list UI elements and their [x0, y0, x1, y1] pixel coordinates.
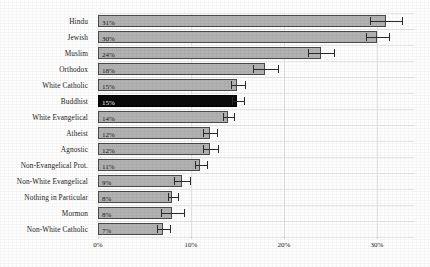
error-bar-cap [161, 209, 162, 217]
bar-value-label: 8% [102, 210, 111, 221]
error-bar-cap [231, 81, 232, 89]
category-label: Mormon [0, 205, 92, 221]
error-bar-cap [389, 33, 390, 41]
error-bar [232, 101, 244, 102]
bar-value-label: 18% [102, 66, 115, 77]
bars-layer: 31%30%24%18%15%15%14%12%12%11%9%8%8%7% [98, 13, 414, 237]
error-bar-cap [308, 49, 309, 57]
error-bar [253, 69, 278, 70]
bar-value-label: 14% [102, 114, 115, 125]
axis-tick-mark [377, 237, 378, 239]
category-label: Orthodox [0, 61, 92, 77]
bar-value-label: 12% [102, 130, 115, 141]
value-axis: 0%10%20%30% [98, 237, 414, 257]
category-label: White Catholic [0, 77, 92, 93]
error-bar-cap [168, 193, 169, 201]
category-label: Muslim [0, 45, 92, 61]
error-bar [231, 85, 245, 86]
error-bar [195, 165, 207, 166]
category-label: Agnostic [0, 141, 92, 157]
axis-tick-mark [284, 237, 285, 239]
error-bar-cap [157, 225, 158, 233]
error-bar [370, 21, 402, 22]
bar-row: 12% [98, 141, 414, 157]
axis-tick-mark [98, 237, 99, 239]
error-bar [161, 213, 184, 214]
bar-value-label: 15% [102, 82, 115, 93]
error-bar-cap [234, 113, 235, 121]
error-bar-cap [217, 129, 218, 137]
bar: 8% [98, 191, 172, 204]
bar: 31% [98, 15, 386, 28]
axis-tick-label: 0% [93, 241, 102, 249]
axis-tick-mark [191, 237, 192, 239]
error-bar [366, 37, 389, 38]
error-bar-cap [170, 225, 171, 233]
error-bar-cap [203, 145, 204, 153]
error-bar-cap [223, 113, 224, 121]
bar-value-label: 9% [102, 178, 111, 189]
bar-chart: HinduJewishMuslimOrthodoxWhite CatholicB… [0, 0, 430, 267]
category-label: Jewish [0, 29, 92, 45]
error-bar-cap [190, 177, 191, 185]
error-bar-cap [207, 161, 208, 169]
error-bar [308, 53, 334, 54]
error-bar-cap [203, 129, 204, 137]
error-bar-cap [174, 177, 175, 185]
axis-tick-label: 10% [185, 241, 198, 249]
error-bar-cap [402, 17, 403, 25]
bar-row: 30% [98, 29, 414, 45]
bar-row: 24% [98, 45, 414, 61]
bar: 9% [98, 175, 182, 188]
bar: 12% [98, 127, 210, 140]
bar: 15% [98, 95, 237, 108]
error-bar-cap [278, 65, 279, 73]
error-bar [203, 133, 217, 134]
error-bar [223, 117, 233, 118]
error-bar-cap [245, 81, 246, 89]
bar-row: 18% [98, 61, 414, 77]
category-axis-labels: HinduJewishMuslimOrthodoxWhite CatholicB… [0, 13, 92, 237]
bar-value-label: 8% [102, 194, 111, 205]
plot-area: 31%30%24%18%15%15%14%12%12%11%9%8%8%7% [98, 13, 414, 237]
error-bar-cap [178, 193, 179, 201]
bar: 15% [98, 79, 237, 92]
bar-value-label: 11% [102, 162, 115, 173]
bar-row: 11% [98, 157, 414, 173]
bar: 7% [98, 223, 163, 236]
category-label: Atheist [0, 125, 92, 141]
bar-row: 15% [98, 77, 414, 93]
bar: 24% [98, 47, 321, 60]
bar-value-label: 31% [102, 18, 115, 29]
bar-row: 15% [98, 93, 414, 109]
error-bar [168, 197, 178, 198]
error-bar-cap [244, 97, 245, 105]
bar-value-label: 15% [102, 98, 115, 109]
bar: 18% [98, 63, 265, 76]
axis-tick-label: 30% [370, 241, 383, 249]
error-bar-cap [195, 161, 196, 169]
bar-row: 8% [98, 205, 414, 221]
category-label: Buddhist [0, 93, 92, 109]
error-bar-cap [232, 97, 233, 105]
category-label: Non-Evangelical Prot. [0, 157, 92, 173]
error-bar-cap [370, 17, 371, 25]
category-label: Non-White Evangelical [0, 173, 92, 189]
bar: 30% [98, 31, 377, 44]
category-label: Non-White Catholic [0, 221, 92, 237]
error-bar-cap [218, 145, 219, 153]
bar: 14% [98, 111, 228, 124]
bar-row: 12% [98, 125, 414, 141]
axis-tick-label: 20% [277, 241, 290, 249]
error-bar-cap [366, 33, 367, 41]
error-bar [203, 149, 218, 150]
category-label: Hindu [0, 13, 92, 29]
bar-value-label: 7% [102, 226, 111, 237]
bar-row: 31% [98, 13, 414, 29]
bar-row: 9% [98, 173, 414, 189]
bar-value-label: 12% [102, 146, 115, 157]
bar: 11% [98, 159, 200, 172]
category-label: Nothing in Particular [0, 189, 92, 205]
error-bar-cap [334, 49, 335, 57]
error-bar [157, 229, 169, 230]
